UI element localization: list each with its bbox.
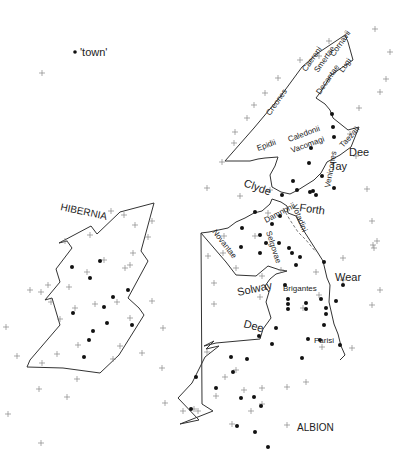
grid-cross-icon <box>284 422 290 428</box>
grid-cross-icon <box>121 212 127 218</box>
town-marker-icon <box>341 283 345 287</box>
grid-cross-icon <box>377 287 383 293</box>
albion-coastline <box>178 233 287 424</box>
town-marker-icon <box>286 302 290 306</box>
river-label: Dee <box>349 146 369 158</box>
town-marker-icon <box>130 323 134 327</box>
grid-cross-icon <box>369 302 375 308</box>
grid-cross-icon <box>36 386 42 392</box>
grid-cross-icon <box>74 376 80 382</box>
town-marker-icon <box>300 356 304 360</box>
town-marker-icon <box>306 337 310 341</box>
grid-cross-icon <box>145 234 151 240</box>
town-marker-icon <box>98 259 102 263</box>
grid-cross-icon <box>241 387 247 393</box>
town-marker-icon <box>290 251 294 255</box>
tribe-label: Selgovae <box>264 230 283 265</box>
grid-cross-icon <box>244 115 250 121</box>
grid-cross-icon <box>127 262 133 268</box>
grid-cross-icon <box>45 282 51 288</box>
town-marker-icon <box>189 407 193 411</box>
town-marker-icon <box>245 357 249 361</box>
hibernia-coastline <box>27 203 154 373</box>
town-marker-icon <box>235 424 239 428</box>
grid-cross-icon <box>237 193 243 199</box>
grid-cross-icon <box>130 250 136 256</box>
grid-cross-icon <box>232 129 238 135</box>
town-marker-icon <box>259 404 263 408</box>
town-marker-icon <box>330 112 334 116</box>
town-marker-icon <box>71 311 75 315</box>
grid-cross-icon <box>251 102 257 108</box>
grid-cross-icon <box>371 245 377 251</box>
albion-north-coastline <box>201 199 272 233</box>
town-marker-icon <box>70 265 74 269</box>
tribe-label: Lugi <box>337 56 353 74</box>
grid-cross-icon <box>117 343 123 349</box>
town-marker-icon <box>334 299 338 303</box>
town-marker-icon <box>252 395 256 399</box>
grid-cross-icon <box>297 57 303 63</box>
town-marker-icon <box>304 307 308 311</box>
grid-crosses <box>3 26 393 446</box>
tribe-label: Creones <box>264 87 289 117</box>
town-marker-icon <box>320 174 324 178</box>
river-label: Clyde <box>242 177 273 198</box>
town-marker-icon <box>331 125 335 129</box>
grid-cross-icon <box>159 365 165 371</box>
grid-cross-icon <box>340 255 346 261</box>
town-marker-icon <box>298 255 302 259</box>
map-canvas: 'town' HIBERNIAALBION DeeTayClydeForthSo… <box>0 0 395 467</box>
town-marker-icon <box>322 323 326 327</box>
town-marker-icon <box>253 430 257 434</box>
grid-cross-icon <box>149 298 155 304</box>
town-marker-icon <box>194 375 198 379</box>
grid-cross-icon <box>211 301 217 307</box>
grid-cross-icon <box>5 411 11 417</box>
grid-cross-icon <box>383 76 389 82</box>
grid-cross-icon <box>122 265 128 271</box>
town-legend-icon <box>73 50 77 54</box>
legend-label: 'town' <box>80 46 107 58</box>
town-marker-icon <box>258 233 262 237</box>
grid-cross-icon <box>211 280 217 286</box>
grid-cross-icon <box>54 351 60 357</box>
grid-cross-icon <box>233 265 239 271</box>
tribe-label: Novantae <box>210 228 239 261</box>
town-marker-icon <box>286 297 290 301</box>
town-marker-icon <box>324 312 328 316</box>
grid-cross-icon <box>66 284 72 290</box>
grid-cross-icon <box>349 345 355 351</box>
grid-cross-icon <box>84 269 90 275</box>
grid-cross-icon <box>27 287 33 293</box>
grid-cross-icon <box>38 440 44 446</box>
town-marker-icon <box>239 245 243 249</box>
town-marker-icon <box>338 343 342 347</box>
grid-cross-icon <box>374 238 380 244</box>
grid-cross-icon <box>72 305 78 311</box>
town-marker-icon <box>105 321 109 325</box>
town-marker-icon <box>214 386 218 390</box>
grid-cross-icon <box>162 400 168 406</box>
grid-cross-icon <box>64 394 70 400</box>
town-marker-icon <box>240 226 244 230</box>
river-label: Dee <box>242 317 265 334</box>
town-marker-icon <box>91 329 95 333</box>
grid-cross-icon <box>14 353 20 359</box>
town-marker-icon <box>304 301 308 305</box>
river-labels: DeeTayClydeForthSolwayWearDee <box>236 146 369 334</box>
town-marker-icon <box>332 186 336 190</box>
grid-cross-icon <box>110 356 116 362</box>
grid-cross-icon <box>222 374 228 380</box>
town-marker-icon <box>102 305 106 309</box>
grid-cross-icon <box>3 324 9 330</box>
grid-cross-icon <box>364 186 370 192</box>
town-marker-icon <box>307 161 311 165</box>
grid-cross-icon <box>139 350 145 356</box>
town-marker-icon <box>231 370 235 374</box>
grid-cross-icon <box>114 299 120 305</box>
grid-cross-icon <box>303 379 309 385</box>
town-marker-icon <box>294 263 298 267</box>
grid-cross-icon <box>326 38 332 44</box>
grid-cross-icon <box>369 218 375 224</box>
